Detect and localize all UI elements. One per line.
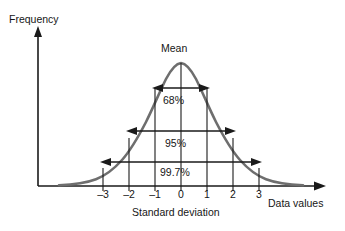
y-axis <box>34 26 42 186</box>
tick-label-zero: 0 <box>171 189 191 200</box>
normal-distribution-diagram: Frequency Mean 68% 95% 99.7% –3 –2 –1 0 … <box>0 0 345 231</box>
tick-label-minus3: –3 <box>93 189 113 200</box>
tick-label-plus1: 1 <box>197 189 217 200</box>
percent-95-label: 95% <box>165 138 186 149</box>
tick-label-minus1: –1 <box>145 189 165 200</box>
percent-68-label: 68% <box>163 95 184 106</box>
tick-label-plus2: 2 <box>223 189 243 200</box>
x-axis-label-standard-deviation: Standard deviation <box>132 207 220 218</box>
tick-label-minus2: –2 <box>119 189 139 200</box>
percent-997-label: 99.7% <box>160 167 190 178</box>
tick-label-plus3: 3 <box>249 189 269 200</box>
mean-label: Mean <box>161 43 187 54</box>
x-axis-label-data-values: Data values <box>268 198 323 209</box>
y-axis-label: Frequency <box>9 14 59 25</box>
